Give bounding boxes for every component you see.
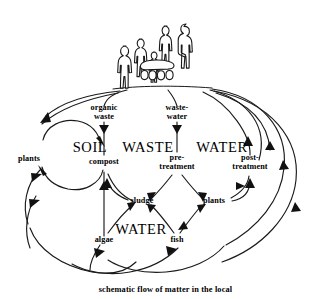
node-label-post-treatment: post- treatment — [232, 154, 267, 171]
zone-title-water-right: WATER — [196, 140, 247, 154]
zone-title-water-bottom: WATER — [115, 222, 166, 236]
flow-soil-cycle — [38, 120, 105, 189]
node-label-plants-right: plants — [203, 197, 225, 205]
pre-treatment-line-2: treatment — [159, 163, 194, 172]
flow-right-outer-returns — [212, 89, 301, 262]
schematic-flow-diagram: SOIL WASTE WATER WATER organic waste was… — [0, 0, 331, 299]
node-label-sludge: sludge — [131, 197, 154, 205]
node-label-waste-water: waste- water — [166, 104, 189, 121]
waste-water-line-2: water — [166, 113, 189, 122]
flow-fish-plants-right — [178, 204, 206, 233]
people-group-icon — [113, 24, 212, 89]
zone-title-waste: WASTE — [122, 140, 173, 154]
organic-waste-line-2: waste — [90, 113, 117, 122]
node-label-fish: fish — [170, 236, 183, 244]
node-label-plants-left: plants — [18, 155, 40, 163]
node-label-pre-treatment: pre- treatment — [159, 154, 194, 171]
diagram-caption: schematic flow of matter in the local — [0, 285, 331, 294]
node-label-organic-waste: organic waste — [90, 104, 117, 121]
post-treatment-line-2: treatment — [232, 163, 267, 172]
node-label-compost: compost — [89, 158, 119, 166]
node-label-algae: algae — [95, 236, 114, 244]
zone-title-soil: SOIL — [73, 140, 108, 154]
flow-plants-right-to-post-treatment — [231, 176, 255, 201]
